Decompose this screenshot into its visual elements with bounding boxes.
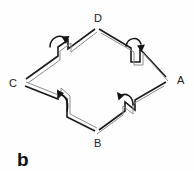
vertex-label-B: B bbox=[94, 137, 101, 149]
edge-BA-inner bbox=[97, 86, 164, 134]
rotation-arrow-CB bbox=[57, 90, 68, 111]
figure-panel-b: D A B C b bbox=[0, 0, 194, 171]
edge-DA-inner bbox=[101, 33, 168, 81]
rotation-arrow-DA-head bbox=[137, 45, 145, 53]
vertex-label-D: D bbox=[94, 12, 102, 24]
edge-DA-outer bbox=[99, 29, 166, 77]
rotation-arrow-DA-arc bbox=[126, 39, 141, 46]
edge-BA bbox=[97, 82, 166, 134]
edge-CD-inner bbox=[28, 32, 97, 83]
rotation-arrow-DA bbox=[126, 39, 145, 52]
rhombus-diagram: D A B C b bbox=[0, 0, 194, 171]
panel-label: b bbox=[17, 149, 29, 170]
vertex-label-A: A bbox=[177, 74, 185, 86]
edge-CB bbox=[25, 82, 97, 131]
vertex-label-C: C bbox=[9, 77, 17, 89]
edge-CB-inner bbox=[26, 82, 97, 128]
edge-DA bbox=[99, 29, 168, 81]
rotation-arrow-BA-head bbox=[117, 92, 124, 101]
